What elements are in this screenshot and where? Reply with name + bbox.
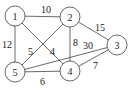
node-label: 4 [68, 66, 73, 77]
edge-weight-5-3: 30 [83, 40, 93, 51]
edge-weight-4-3: 7 [93, 60, 98, 71]
node-label: 2 [68, 12, 73, 23]
weighted-graph: 1012458153067 12345 [0, 0, 131, 93]
edge-weight-1-2: 10 [41, 4, 51, 15]
node-label: 1 [13, 11, 18, 22]
edge-2-5 [15, 17, 70, 72]
node-1: 1 [5, 6, 25, 26]
edge-weight-1-4: 4 [50, 46, 55, 57]
edge-weight-1-5: 12 [2, 39, 12, 50]
edge-weight-2-4: 8 [73, 37, 78, 48]
edge-1-4 [15, 16, 70, 71]
node-5: 5 [5, 62, 25, 82]
edge-weight-2-5: 5 [28, 46, 33, 57]
edge-weight-2-3: 15 [95, 22, 105, 33]
node-label: 3 [115, 40, 120, 51]
node-3: 3 [107, 35, 127, 55]
node-4: 4 [60, 61, 80, 81]
node-label: 5 [13, 67, 18, 78]
nodes: 12345 [5, 6, 127, 82]
node-2: 2 [60, 7, 80, 27]
edge-weight-5-4: 6 [40, 76, 45, 87]
